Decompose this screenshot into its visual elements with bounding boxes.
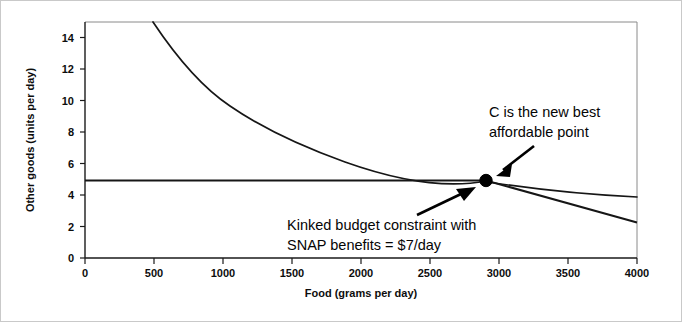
- x-tick-label-0: 0: [82, 267, 88, 279]
- y-tick-label-4: 4: [68, 189, 75, 201]
- point-c-annotation-line1: C is the new best: [489, 104, 600, 120]
- y-tick-label-2: 2: [68, 221, 74, 233]
- y-axis-tick-labels: 0 2 4 6 8 10 12 14: [62, 32, 75, 265]
- x-tick-label-1000: 1000: [211, 267, 235, 279]
- x-tick-label-2500: 2500: [418, 267, 442, 279]
- chart-canvas: 0 2 4 6 8 10 12 14 0 500 1000 1500: [0, 0, 682, 322]
- y-tick-label-10: 10: [62, 95, 74, 107]
- budget-arrow-shaft: [417, 194, 461, 215]
- y-tick-label-6: 6: [68, 158, 74, 170]
- chart-figure: 0 2 4 6 8 10 12 14 0 500 1000 1500: [0, 0, 682, 322]
- y-tick-label-14: 14: [62, 32, 75, 44]
- budget-annotation-line1: Kinked budget constraint with: [287, 217, 476, 233]
- point-c-arrow-head: [496, 164, 512, 177]
- x-tick-label-3500: 3500: [556, 267, 580, 279]
- x-axis-ticks: [85, 258, 637, 264]
- point-c-arrow-shaft: [503, 146, 534, 170]
- y-axis-title: Other goods (units per day): [24, 68, 36, 213]
- point-c-arrow: [496, 146, 534, 177]
- budget-constraint-annotation: Kinked budget constraint with SNAP benef…: [287, 217, 476, 253]
- x-tick-label-3000: 3000: [487, 267, 511, 279]
- y-axis-ticks: [80, 38, 85, 259]
- x-tick-label-2000: 2000: [349, 267, 373, 279]
- y-tick-label-8: 8: [68, 126, 74, 138]
- x-axis-title: Food (grams per day): [305, 287, 418, 299]
- point-c-annotation: C is the new best affordable point: [489, 104, 600, 140]
- y-tick-label-0: 0: [68, 252, 74, 264]
- x-tick-label-4000: 4000: [625, 267, 649, 279]
- point-c-marker: [480, 174, 492, 186]
- point-c-annotation-line2: affordable point: [489, 124, 589, 140]
- y-tick-label-12: 12: [62, 63, 74, 75]
- x-tick-label-1500: 1500: [280, 267, 304, 279]
- x-tick-label-500: 500: [145, 267, 163, 279]
- x-axis-tick-labels: 0 500 1000 1500 2000 2500 3000 3500 4000: [82, 267, 649, 279]
- budget-constraint-arrow: [417, 187, 476, 215]
- budget-annotation-line2: SNAP benefits = $7/day: [287, 237, 442, 253]
